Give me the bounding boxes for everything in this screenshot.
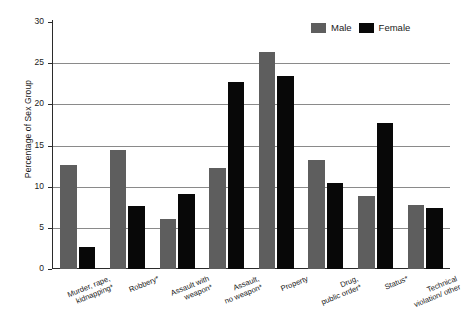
bar-male <box>408 205 425 269</box>
bar-male <box>358 196 375 269</box>
bar-male <box>209 168 226 269</box>
bar-female <box>277 76 294 269</box>
y-tick-label: 10 <box>22 182 44 191</box>
bar-female <box>426 208 443 269</box>
bar-male <box>308 160 325 270</box>
y-tick-label: 0 <box>22 264 44 273</box>
legend-swatch-female-icon <box>359 23 374 33</box>
x-tick-label: Technical violation/ other <box>367 274 462 324</box>
bar-female <box>228 82 245 269</box>
bar-female <box>79 247 96 269</box>
legend: Male Female <box>311 22 410 33</box>
gridline <box>53 104 450 105</box>
y-tick-label: 20 <box>22 99 44 108</box>
bar-female <box>128 206 145 269</box>
y-tick-label: 5 <box>22 223 44 232</box>
gridline <box>53 63 450 64</box>
bar-female <box>178 194 195 269</box>
legend-label-male: Male <box>331 22 352 33</box>
plot-area <box>53 22 450 269</box>
y-tick-mark <box>48 269 52 270</box>
legend-swatch-male-icon <box>311 23 326 33</box>
legend-label-female: Female <box>379 22 411 33</box>
legend-item-male[interactable]: Male <box>311 22 352 33</box>
y-tick-label: 15 <box>22 141 44 150</box>
legend-item-female[interactable]: Female <box>359 22 411 33</box>
bar-female <box>377 123 394 269</box>
bar-male <box>60 165 77 269</box>
bar-female <box>327 183 344 269</box>
y-tick-label: 25 <box>22 58 44 67</box>
bar-male <box>110 150 127 269</box>
y-tick-label: 30 <box>22 17 44 26</box>
bar-male <box>259 52 276 269</box>
bar-male <box>160 219 177 269</box>
